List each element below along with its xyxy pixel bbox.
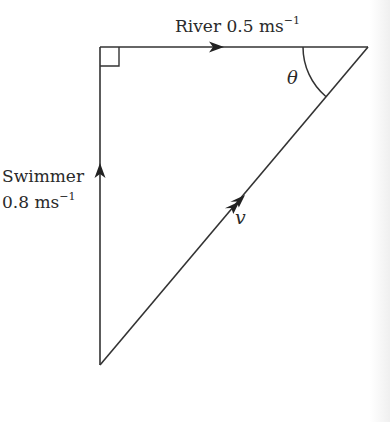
resultant-v-label: v (235, 208, 246, 227)
river-name: River (175, 16, 221, 36)
vector-diagram: River 0.5 ms−1 Swimmer 0.8 ms−1 θ v (0, 0, 390, 422)
river-unit-exponent: −1 (284, 14, 300, 27)
theta-arc (303, 47, 326, 97)
swimmer-value: 0.8 (2, 192, 29, 212)
river-value: 0.5 (226, 16, 253, 36)
swimmer-velocity-label: Swimmer 0.8 ms−1 (2, 165, 84, 213)
swimmer-unit-exponent: −1 (59, 190, 75, 203)
swimmer-name: Swimmer (2, 165, 84, 187)
swimmer-unit: ms (34, 192, 59, 212)
river-unit: ms (259, 16, 284, 36)
river-velocity-label: River 0.5 ms−1 (175, 16, 300, 35)
theta-label: θ (287, 69, 298, 87)
page-edge-shadow (370, 0, 390, 422)
swimmer-speed: 0.8 ms−1 (2, 187, 84, 213)
right-angle-marker (100, 47, 119, 66)
